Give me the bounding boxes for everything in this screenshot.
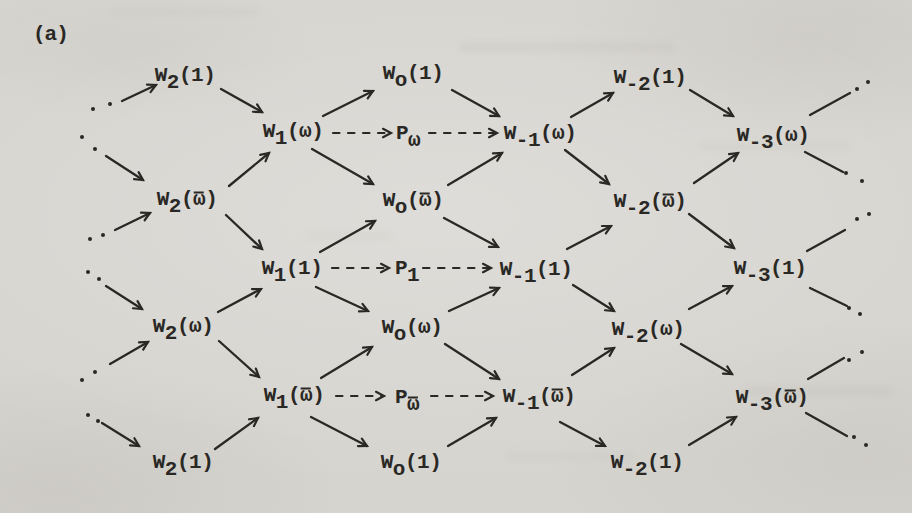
node-close-paren: ) xyxy=(796,386,808,409)
node-subscript: -3 xyxy=(746,264,770,287)
edge-w1-w-to-wo-1-a xyxy=(323,91,373,116)
node-subscript: o xyxy=(395,196,407,219)
edge-wm3-w-to-dots-right-2 xyxy=(805,152,843,172)
node-subscript: -1 xyxy=(516,129,540,152)
edge-wm1-1-to-wm2-wbar xyxy=(567,226,611,249)
node-subscript: ω xyxy=(408,129,420,152)
node-close-paren: ) xyxy=(430,316,442,339)
node-arg: 1 xyxy=(662,66,674,89)
node-subscript: -3 xyxy=(748,393,772,416)
node-base: W xyxy=(504,122,516,145)
node-open-paren: ( xyxy=(181,188,193,211)
node-open-paren: ( xyxy=(177,315,189,338)
node-open-paren: ( xyxy=(407,189,419,212)
node-arg: ω xyxy=(189,315,201,338)
edge-wm2-w-to-wm3-1 xyxy=(689,286,732,309)
node-base: W xyxy=(736,386,748,409)
node-close-paren: ) xyxy=(310,257,322,280)
node-base: W xyxy=(382,316,394,339)
node-subscript: 1 xyxy=(407,264,419,287)
node-base: W xyxy=(737,124,749,147)
node-wm2-1-g: W-2(1) xyxy=(611,452,684,473)
node-close-paren: ) xyxy=(431,62,443,85)
node-base: W xyxy=(263,120,275,143)
node-subscript: 2 xyxy=(167,71,179,94)
edge-wm3-wbar-to-dots-right-6 xyxy=(806,413,847,436)
node-base: P xyxy=(395,386,407,409)
node-open-paren: ( xyxy=(773,124,785,147)
ellipsis-dots-right-1 xyxy=(855,87,859,91)
edge-wo-wbar-to-wm1-1 xyxy=(444,218,498,247)
node-open-paren: ( xyxy=(177,451,189,474)
node-close-paren: ) xyxy=(797,124,809,147)
edge-wm2-w-to-wm3-wbar xyxy=(681,344,732,374)
edge-dots-left-3-to-w2-wbar xyxy=(115,213,150,230)
ellipsis-dots-right-4 xyxy=(858,312,862,316)
edge-w2-wbar-to-w1-w xyxy=(229,153,269,186)
node-arg: ω xyxy=(299,120,311,143)
edge-wm2-wbar-to-wm3-w xyxy=(694,153,738,183)
node-base: W xyxy=(500,258,512,281)
node-subscript: 2 xyxy=(165,322,177,345)
node-subscript: -1 xyxy=(512,265,536,288)
node-base: P xyxy=(396,122,408,145)
node-wm3-wbar: W-3(ω) xyxy=(736,387,809,408)
node-open-paren: ( xyxy=(650,190,662,213)
node-subscript: 2 xyxy=(165,458,177,481)
node-arg: 1 xyxy=(782,257,794,280)
node-base: W xyxy=(614,190,626,213)
ellipsis-dots-right-4 xyxy=(847,306,851,310)
node-base: W xyxy=(383,189,395,212)
edge-dots-left-2-to-w2-wbar xyxy=(106,156,143,180)
node-open-paren: ( xyxy=(405,451,417,474)
node-open-paren: ( xyxy=(539,385,551,408)
node-base: W xyxy=(264,384,276,407)
node-open-paren: ( xyxy=(536,258,548,281)
node-arg-overbar: ω xyxy=(419,190,431,211)
node-arg: ω xyxy=(418,316,430,339)
ellipsis-dots-left-5 xyxy=(80,378,84,382)
ellipsis-dots-right-1 xyxy=(866,80,870,84)
node-arg: 1 xyxy=(419,62,431,85)
edge-wo-w-to-wm1-1 xyxy=(449,288,499,311)
node-arg: 1 xyxy=(417,451,429,474)
node-base: W xyxy=(157,188,169,211)
node-open-paren: ( xyxy=(407,62,419,85)
node-base: W xyxy=(153,315,165,338)
edge-w1-1-to-wo-wbar xyxy=(320,221,375,252)
ellipsis-dots-left-4 xyxy=(86,270,90,274)
edge-wo-1-g-to-wm1-wbar xyxy=(448,418,496,446)
node-subscript: o xyxy=(393,458,405,481)
node-open-paren: ( xyxy=(648,318,660,341)
node-base: P xyxy=(395,257,407,280)
node-open-paren: ( xyxy=(647,451,659,474)
node-subscript: -2 xyxy=(624,325,648,348)
edge-wm1-w-to-wm2-wbar xyxy=(565,150,609,184)
node-base: W xyxy=(614,66,626,89)
edge-wm3-w-to-dots-right-1 xyxy=(810,93,850,115)
node-base: W xyxy=(503,385,515,408)
node-arg-overbar: ω xyxy=(662,191,674,212)
node-wo-1-g: Wo(1) xyxy=(381,452,442,473)
node-base: W xyxy=(262,257,274,280)
node-w2-1-g: W2(1) xyxy=(153,452,214,473)
node-wm1-w: W-1(ω) xyxy=(504,123,577,144)
edge-wm1-w-to-wm2-1-a xyxy=(571,93,613,117)
node-close-paren: ) xyxy=(674,66,686,89)
node-subscript: 1 xyxy=(275,127,287,150)
node-w1-1: W1(1) xyxy=(262,258,323,279)
node-subscript: -2 xyxy=(626,197,650,220)
node-close-paren: ) xyxy=(205,188,217,211)
edge-dots-left-4-to-w2-w xyxy=(106,286,142,309)
node-w1-w: W1(ω) xyxy=(263,121,324,142)
node-wo-w: Wo(ω) xyxy=(382,317,443,338)
overbar: ω xyxy=(407,394,419,415)
node-open-paren: ( xyxy=(287,120,299,143)
edge-wo-wbar-to-wm1-w xyxy=(448,153,502,185)
node-subscript: ω xyxy=(407,393,419,416)
node-arg: ω xyxy=(552,122,564,145)
edge-wm3-wbar-to-dots-right-5 xyxy=(808,358,844,379)
node-p-wbar: Pω xyxy=(395,387,419,408)
ellipsis-dots-left-5 xyxy=(93,370,97,374)
node-base: W xyxy=(153,451,165,474)
